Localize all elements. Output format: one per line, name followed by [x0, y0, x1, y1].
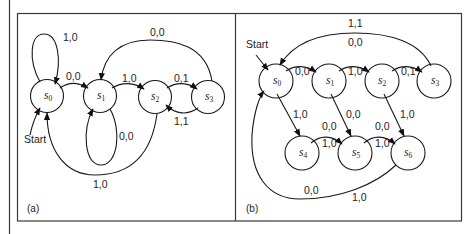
panel-a: s0 s1 s2 s3 1,0 0,0 0,0	[24, 26, 225, 214]
transition-b-s3-s0: 1,1 0,0	[280, 17, 431, 66]
svg-text:1,1: 1,1	[174, 115, 189, 127]
svg-text:1,0: 1,0	[322, 137, 337, 149]
svg-text:s5: s5	[352, 146, 360, 160]
svg-text:s2: s2	[378, 74, 386, 88]
transition-b-s5-s6: 0,0 1,0	[364, 120, 395, 149]
svg-text:s1: s1	[97, 89, 105, 103]
state-a-s1: s1	[84, 80, 117, 113]
svg-text:0,0: 0,0	[150, 26, 165, 38]
state-diagram-figure: s0 s1 s2 s3 1,0 0,0 0,0	[0, 0, 471, 234]
svg-text:0,0: 0,0	[119, 130, 134, 142]
svg-text:1,0: 1,0	[348, 65, 363, 77]
svg-text:0,0: 0,0	[346, 108, 361, 120]
start-arrow-b: Start	[246, 38, 268, 70]
svg-text:1,0: 1,0	[352, 191, 367, 203]
state-b-s2: s2	[365, 64, 399, 98]
svg-text:s4: s4	[299, 146, 307, 160]
svg-text:1,0: 1,0	[122, 72, 137, 84]
transition-a-s3-s1: 0,0	[101, 26, 212, 81]
svg-text:1,0: 1,0	[93, 178, 108, 190]
svg-text:s0: s0	[44, 89, 52, 103]
svg-text:s1: s1	[326, 74, 334, 88]
svg-text:1,0: 1,0	[375, 137, 390, 149]
panel-b-caption: (b)	[246, 203, 258, 214]
svg-text:1,1: 1,1	[348, 17, 363, 29]
svg-text:Start: Start	[24, 133, 46, 145]
transition-a-s3-s2: 1,1	[166, 105, 198, 127]
svg-text:1,0: 1,0	[400, 108, 415, 120]
svg-text:1,0: 1,0	[293, 108, 308, 120]
state-a-s0: s0	[31, 80, 64, 113]
transition-a-s2-s0: 1,0	[47, 113, 157, 190]
state-b-s0: s0	[259, 64, 293, 98]
state-b-s6: s6	[391, 136, 425, 170]
transition-a-s1-s1: 0,0	[86, 109, 134, 165]
svg-text:1,0: 1,0	[63, 31, 78, 43]
svg-text:s3: s3	[205, 90, 213, 104]
svg-text:s0: s0	[273, 74, 281, 88]
svg-text:0,0: 0,0	[66, 70, 81, 82]
svg-text:0,1: 0,1	[401, 65, 416, 77]
panel-b: s0 s1 s2 s3 s4 s5 s6 0,0	[246, 17, 451, 214]
svg-text:s3: s3	[431, 74, 439, 88]
svg-text:0,0: 0,0	[295, 65, 310, 77]
transition-b-s0-s4: 1,0	[277, 94, 308, 136]
state-b-s1: s1	[312, 64, 346, 98]
svg-text:Start: Start	[246, 38, 268, 50]
svg-text:0,1: 0,1	[174, 72, 189, 84]
svg-text:0,0: 0,0	[322, 120, 337, 132]
state-b-s3: s3	[417, 64, 451, 98]
start-arrow-a: Start	[24, 108, 46, 145]
transition-b-s0-s1: 0,0	[286, 65, 316, 77]
transition-a-s2-s3: 0,1	[167, 72, 197, 89]
transition-b-s1-s2: 1,0	[339, 65, 369, 77]
transition-b-s4-s5: 0,0 1,0	[311, 120, 342, 149]
svg-text:s6: s6	[404, 146, 412, 160]
panel-a-caption: (a)	[27, 203, 39, 214]
svg-text:0,0: 0,0	[348, 36, 363, 48]
svg-text:0,0: 0,0	[304, 184, 319, 196]
transition-a-s0-s1: 0,0	[60, 70, 88, 88]
svg-text:0,0: 0,0	[375, 120, 390, 132]
svg-text:s2: s2	[151, 90, 159, 104]
state-a-s2: s2	[139, 81, 172, 114]
transition-a-s1-s2: 1,0	[112, 72, 144, 89]
